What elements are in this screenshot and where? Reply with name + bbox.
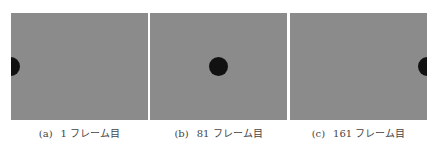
frame-panel-c [290,13,427,120]
frame-panel-a [11,13,148,120]
caption-tag: (c) [312,128,325,139]
ball-icon [418,57,427,76]
caption-c: (c)161 フレーム目 [290,126,427,142]
caption-label: 1 フレーム目 [61,128,121,139]
ball-icon [11,57,20,76]
frame-panel-b [150,13,287,120]
caption-tag: (b) [174,128,188,139]
caption-label: 161 フレーム目 [333,128,405,139]
caption-b: (b)81 フレーム目 [150,126,287,142]
ball-icon [209,57,228,76]
caption-label: 81 フレーム目 [197,128,263,139]
caption-tag: (a) [39,128,53,139]
caption-a: (a)1 フレーム目 [11,126,148,142]
